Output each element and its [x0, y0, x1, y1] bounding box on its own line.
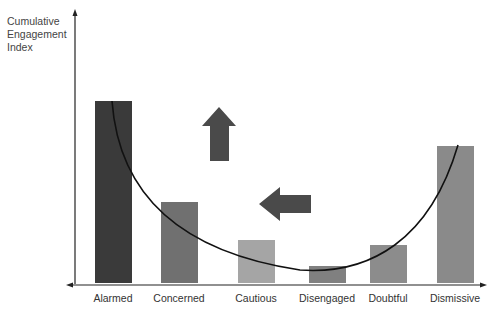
arrow-up-icon — [202, 107, 236, 161]
bar-dismissive — [437, 146, 474, 283]
bar-alarmed — [95, 101, 132, 283]
category-label-doubtful: Doubtful — [368, 292, 407, 304]
bar-concerned — [161, 202, 198, 283]
x-axis-left-arrow-icon — [66, 283, 73, 288]
category-label-alarmed: Alarmed — [93, 292, 132, 304]
y-axis-arrow-icon — [73, 9, 78, 16]
bar-doubtful — [370, 245, 407, 283]
x-axis-right-arrow-icon — [480, 283, 487, 288]
category-label-cautious: Cautious — [235, 292, 276, 304]
arrow-left-icon — [259, 187, 311, 221]
category-label-concerned: Concerned — [153, 292, 204, 304]
category-label-disengaged: Disengaged — [299, 292, 355, 304]
category-label-dismissive: Dismissive — [430, 292, 480, 304]
chart-canvas — [0, 0, 487, 314]
